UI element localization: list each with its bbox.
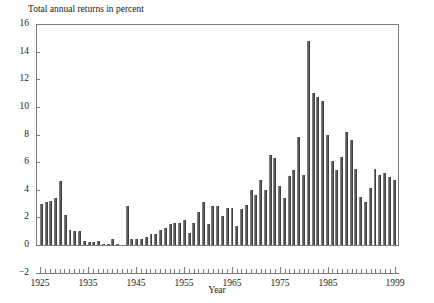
x-tick-mark	[213, 269, 214, 273]
x-tick-mark	[208, 269, 209, 273]
x-tick-mark	[83, 269, 84, 273]
bar	[378, 175, 381, 245]
bar	[188, 233, 191, 245]
x-tick-label: 1955	[175, 278, 194, 288]
y-tick-label: 2	[24, 212, 29, 222]
y-tick-mark	[36, 162, 40, 163]
x-tick-mark	[174, 269, 175, 273]
zero-baseline	[36, 245, 399, 246]
x-tick-mark	[79, 269, 80, 273]
x-tick-mark	[122, 269, 123, 273]
bar	[326, 135, 329, 246]
bar	[335, 170, 338, 245]
x-tick-mark	[222, 269, 223, 273]
bar	[164, 228, 167, 245]
y-tick-label: 6	[24, 157, 29, 167]
bar	[235, 226, 238, 245]
x-tick-mark	[275, 269, 276, 273]
x-tick-mark	[237, 269, 238, 273]
x-tick-mark	[93, 269, 94, 273]
bar	[240, 209, 243, 245]
x-tick-mark	[385, 269, 386, 273]
x-tick-mark	[165, 269, 166, 273]
x-tick-mark	[155, 269, 156, 273]
x-tick-mark	[337, 269, 338, 273]
x-tick-mark	[141, 269, 142, 273]
x-tick-mark	[241, 269, 242, 273]
bar	[150, 234, 153, 245]
bar	[69, 230, 72, 245]
x-tick-mark	[313, 269, 314, 273]
x-tick-mark	[304, 269, 305, 273]
bar	[126, 206, 129, 245]
x-tick-mark	[55, 269, 56, 273]
plot-area	[36, 24, 399, 245]
bar	[383, 173, 386, 245]
bar	[316, 97, 319, 245]
bar	[254, 195, 257, 245]
x-tick-mark	[69, 269, 70, 273]
x-tick-mark	[361, 269, 362, 273]
bar	[345, 132, 348, 245]
bar	[78, 231, 81, 245]
x-tick-mark	[50, 269, 51, 273]
x-tick-mark	[203, 269, 204, 273]
bar	[250, 190, 253, 245]
x-tick-mark	[352, 269, 353, 273]
x-tick-label: 1975	[271, 278, 290, 288]
bar	[145, 237, 148, 245]
x-tick-mark	[375, 269, 376, 273]
y-tick-mark	[36, 217, 40, 218]
bar	[307, 41, 310, 245]
x-tick-mark	[395, 267, 396, 273]
x-tick-mark	[160, 269, 161, 273]
bar	[259, 180, 262, 245]
bar	[202, 202, 205, 245]
bar	[159, 230, 162, 245]
x-tick-mark	[371, 269, 372, 273]
bar	[288, 176, 291, 245]
x-tick-mark	[285, 269, 286, 273]
bar	[173, 223, 176, 245]
x-tick-mark	[323, 269, 324, 273]
bar	[216, 206, 219, 245]
x-tick-mark	[347, 269, 348, 273]
x-tick-mark	[107, 269, 108, 273]
x-tick-mark	[179, 269, 180, 273]
chart-title: Total annual returns in percent	[28, 4, 144, 15]
bar	[340, 157, 343, 245]
bar	[364, 202, 367, 245]
y-tick-mark	[36, 107, 40, 108]
x-tick-mark	[117, 269, 118, 273]
x-tick-mark	[390, 269, 391, 273]
y-tick-mark	[36, 135, 40, 136]
bar	[73, 231, 76, 245]
bar	[49, 201, 52, 245]
x-tick-mark	[136, 267, 137, 273]
bar	[245, 205, 248, 245]
y-axis: −20246810121416	[0, 0, 36, 303]
x-tick-mark	[256, 269, 257, 273]
x-tick-label: 1965	[223, 278, 242, 288]
bar	[45, 202, 48, 245]
x-tick-mark	[131, 269, 132, 273]
x-tick-mark	[328, 267, 329, 273]
bar	[312, 93, 315, 245]
x-tick-label: 1925	[31, 278, 50, 288]
x-tick-label: 1945	[127, 278, 146, 288]
x-tick-mark	[198, 269, 199, 273]
y-tick-label: 12	[20, 74, 30, 84]
x-axis-title: Year	[0, 285, 434, 296]
bar	[350, 140, 353, 245]
x-tick-mark	[170, 269, 171, 273]
bar	[283, 198, 286, 245]
y-tick-mark	[36, 245, 40, 246]
x-axis-line	[36, 273, 399, 274]
bar	[183, 220, 186, 245]
bar	[393, 180, 396, 245]
bar	[302, 175, 305, 245]
bar	[273, 158, 276, 245]
x-tick-mark	[308, 269, 309, 273]
bar	[154, 234, 157, 245]
x-tick-mark	[74, 269, 75, 273]
